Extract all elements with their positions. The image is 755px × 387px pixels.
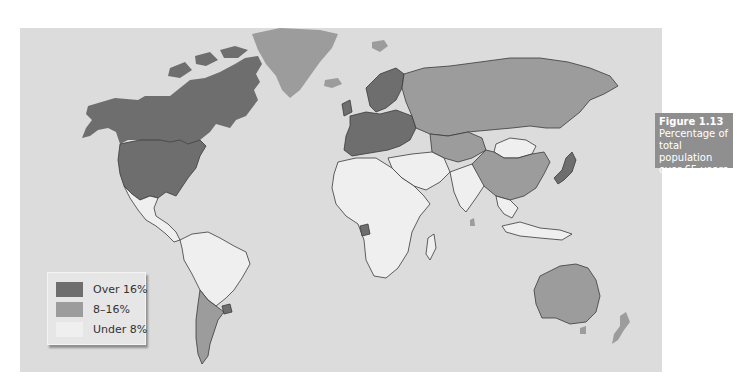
legend-swatch-8-16 [56, 302, 83, 317]
region-usa [118, 140, 206, 200]
region-australia [534, 264, 600, 324]
figure-title: Percentage of total population over 65 y… [659, 128, 730, 176]
legend-label: 8–16% [93, 303, 130, 316]
region-iceland [324, 78, 342, 88]
figure-number: Figure 1.13 [659, 116, 730, 128]
region-south-america [180, 232, 250, 306]
legend-item-8-16: 8–16% [56, 301, 130, 317]
legend-item-under-8: Under 8% [56, 321, 147, 337]
legend-label: Over 16% [93, 283, 147, 296]
region-russia [402, 58, 618, 136]
legend-label: Under 8% [93, 323, 147, 336]
region-uruguay [222, 304, 232, 314]
legend-swatch-under-8 [56, 322, 83, 337]
region-gabon [360, 224, 370, 236]
legend-swatch-over-16 [56, 282, 83, 297]
region-new-zealand [612, 312, 630, 344]
figure-caption: Figure 1.13 Percentage of total populati… [655, 113, 733, 168]
region-western-europe [344, 110, 416, 156]
legend-item-over-16: Over 16% [56, 281, 147, 297]
region-scandinavia [366, 68, 404, 112]
region-southeast-asia [496, 196, 518, 218]
region-japan [554, 152, 576, 184]
region-greenland [252, 28, 338, 98]
map-legend: Over 16% 8–16% Under 8% [47, 272, 146, 345]
